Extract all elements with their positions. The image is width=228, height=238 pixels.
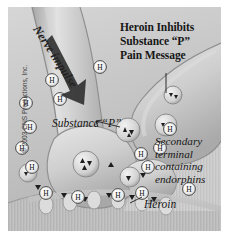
svg-text:H: H	[139, 189, 145, 198]
secondary-line-3: containing	[155, 160, 221, 173]
svg-text:H: H	[167, 125, 173, 134]
illustration-plate: H H H H H H H H H H H H H H H H	[8, 7, 221, 231]
svg-text:H: H	[57, 95, 63, 104]
label-secondary-terminal: Secondary terminal containing endorphins	[155, 135, 221, 185]
svg-text:H: H	[115, 191, 121, 200]
secondary-line-4: endorphins	[155, 173, 221, 186]
label-heroin: Heroin	[144, 198, 176, 210]
title-line-2: Substance “P”	[120, 34, 221, 48]
label-substance-p: Substance “P”	[52, 117, 121, 129]
svg-text:H: H	[145, 163, 151, 172]
svg-text:H: H	[138, 150, 144, 159]
illustration-figure: H H H H H H H H H H H H H H H H	[0, 0, 228, 238]
svg-text:H: H	[75, 193, 81, 202]
secondary-line-1: Secondary	[155, 135, 221, 148]
copyright-notice: © 2003 CNS Productions, Inc.	[21, 65, 28, 153]
title-line-3: Pain Message	[120, 48, 221, 62]
title-line-1: Heroin Inhibits	[120, 20, 221, 34]
secondary-line-2: terminal	[155, 148, 221, 161]
svg-text:H: H	[97, 63, 103, 72]
svg-text:H: H	[27, 123, 33, 132]
svg-text:H: H	[29, 163, 35, 172]
figure-title: Heroin Inhibits Substance “P” Pain Messa…	[120, 20, 221, 63]
svg-text:H: H	[49, 76, 55, 85]
svg-text:H: H	[43, 189, 49, 198]
svg-text:H: H	[186, 185, 192, 194]
